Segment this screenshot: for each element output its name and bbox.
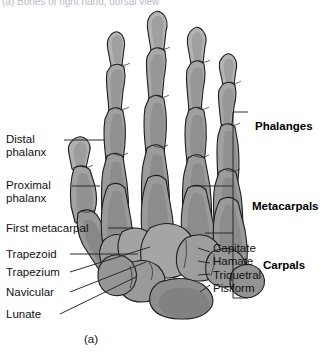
label-triquetral: Triquetral: [213, 269, 261, 282]
label-hamate: Hamate: [213, 255, 253, 268]
label-trapezoid: Trapezoid: [6, 248, 57, 261]
label-metacarpals: Metacarpals: [252, 200, 318, 213]
label-navicular: Navicular: [6, 286, 54, 299]
label-pisiform: Pisiform: [213, 282, 255, 295]
label-trapezium: Trapezium: [6, 266, 60, 279]
hand-skeleton-illustration: [0, 0, 323, 356]
label-carpals: Carpals: [263, 259, 305, 272]
label-proximal-phalanx: Proximal phalanx: [6, 179, 51, 204]
label-phalanges: Phalanges: [255, 120, 313, 133]
hand-skeleton-figure: (a) Bones of right hand, dorsal view: [0, 0, 323, 356]
label-lunate: Lunate: [6, 308, 41, 321]
cropped-header-text: (a) Bones of right hand, dorsal view: [2, 0, 159, 7]
label-first-metacarpal: First metacarpal: [6, 222, 88, 235]
label-capitate: Capitate: [213, 242, 256, 255]
figure-caption: (a): [84, 333, 98, 345]
label-distal-phalanx: Distal phalanx: [6, 133, 46, 158]
